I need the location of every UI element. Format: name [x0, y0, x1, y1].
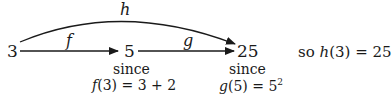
- node-end: 25: [237, 43, 259, 60]
- end-eq-exponent: 2: [277, 77, 283, 87]
- node-mid: 5: [124, 43, 135, 60]
- conclusion-fn: h: [320, 43, 330, 61]
- end-eq-fn: g: [219, 78, 228, 94]
- edge-label-h: h: [120, 2, 130, 18]
- edge-label-f: f: [66, 33, 72, 49]
- conclusion-prefix: so: [298, 43, 320, 61]
- mid-eq-rest: (3) = 3 + 2: [97, 77, 176, 93]
- end-since: since: [229, 62, 266, 76]
- conclusion: so h(3) = 25: [298, 45, 392, 60]
- conclusion-rest: (3) = 25: [329, 43, 391, 61]
- end-equation: g(5) = 52: [219, 78, 283, 93]
- end-eq-rest: (5) = 5: [228, 78, 277, 94]
- mid-equation: f(3) = 3 + 2: [92, 78, 176, 92]
- node-start: 3: [7, 43, 18, 60]
- mid-since: since: [113, 62, 150, 76]
- edge-label-g: g: [183, 33, 193, 49]
